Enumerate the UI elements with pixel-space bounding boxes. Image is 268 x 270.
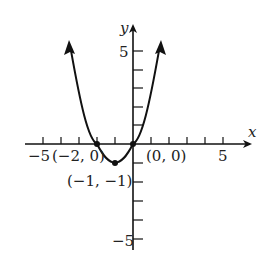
point-label-origin: (0, 0) [146, 147, 186, 165]
x-max-label: 5 [218, 147, 228, 165]
point-label-neg2-0: (−2, 0) [52, 147, 105, 165]
x-axis-label: x [248, 123, 257, 141]
point-vertex [112, 160, 118, 166]
curve-arrow-left-icon [64, 40, 75, 55]
point-origin [130, 141, 136, 147]
parabola-graph: y x 5 −5 −5 5 (−2, 0) (−1, −1) (0, 0) [0, 0, 268, 270]
curve-arrow-right-icon [155, 40, 166, 55]
y-axis-label: y [119, 19, 129, 37]
point-label-vertex: (−1, −1) [67, 172, 132, 190]
y-min-label: −5 [112, 232, 134, 250]
y-max-label: 5 [119, 43, 129, 61]
x-min-label: −5 [28, 147, 50, 165]
parabola-curve-smooth [71, 51, 159, 163]
